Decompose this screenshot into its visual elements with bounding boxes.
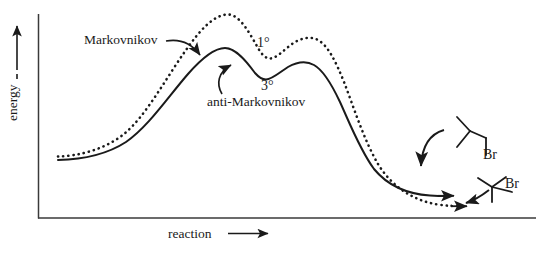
isobutyl-product-pointer-arrow [421,130,444,166]
primary-carbocation-label: 1° [257,36,270,50]
bromine-label-isobutyl: Br [483,148,497,162]
energy-diagram-figure: Markovnikov anti-Markovnikov 1° 3° Br Br… [0,0,536,254]
tertiary-carbocation-label: 3° [261,79,274,93]
isobutyl-bromide-structure [457,117,486,155]
bromine-label-tert-butyl: Br [505,177,519,191]
tert-butyl-product-pointer-arrow [466,190,489,203]
x-axis-label: reaction [168,227,211,241]
y-axis-label: energy [6,85,20,122]
anti-markovnikov-pointer-arrow [219,65,231,94]
anti-markovnikov-label: anti-Markovnikov [207,95,305,109]
anti-markovnikov-solid-curve [58,48,448,196]
markovnikov-label: Markovnikov [84,33,158,47]
